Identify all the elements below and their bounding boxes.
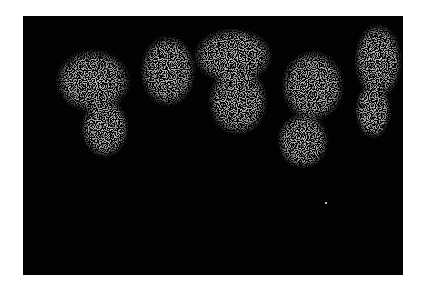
- speckle-blob: [81, 98, 129, 158]
- speckle-blob: [277, 113, 329, 169]
- isolated-dot: [325, 202, 327, 204]
- speckle-image: [23, 16, 403, 275]
- speckle-blob: [281, 50, 345, 122]
- speckle-canvas: [23, 16, 403, 275]
- speckle-blob: [208, 66, 268, 136]
- speckle-blob: [355, 83, 391, 139]
- speckle-blob: [140, 35, 196, 107]
